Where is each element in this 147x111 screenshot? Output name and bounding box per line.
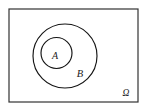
venn-diagram-canvas: A B Ω: [0, 0, 147, 111]
universal-set-label: Ω: [123, 88, 130, 98]
venn-diagram-container: A B Ω: [0, 0, 147, 111]
set-a-label: A: [51, 50, 59, 61]
set-b-label: B: [77, 68, 84, 79]
universal-set-rectangle: [9, 9, 138, 102]
